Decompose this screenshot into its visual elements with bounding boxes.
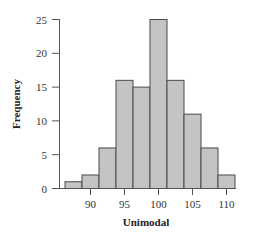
histogram-bar xyxy=(150,20,167,189)
x-axis-title: Unimodal xyxy=(123,216,169,228)
x-tick-label: 95 xyxy=(119,198,131,210)
histogram-bars xyxy=(65,20,235,189)
histogram-bar xyxy=(184,114,201,188)
x-axis: 9095100105110 xyxy=(59,188,236,210)
histogram-bar xyxy=(116,80,133,188)
y-axis: 0510152025 xyxy=(36,14,60,195)
histogram-bar xyxy=(82,175,99,189)
y-tick-label: 25 xyxy=(36,14,48,26)
y-axis-title: Frequency xyxy=(10,79,22,129)
histogram-bar xyxy=(167,80,184,188)
x-tick-label: 110 xyxy=(218,198,235,210)
histogram-bar xyxy=(201,148,218,189)
y-tick-label: 15 xyxy=(36,81,48,93)
y-tick-label: 10 xyxy=(36,115,48,127)
y-tick-label: 5 xyxy=(42,149,48,161)
y-tick-label: 20 xyxy=(36,47,48,59)
histogram-bar xyxy=(99,148,116,189)
x-tick-label: 90 xyxy=(85,198,97,210)
x-tick-label: 100 xyxy=(150,198,167,210)
histogram-bar xyxy=(133,87,150,188)
histogram-bar xyxy=(218,175,235,189)
y-tick-label: 0 xyxy=(42,183,48,195)
x-tick-label: 105 xyxy=(184,198,201,210)
histogram-bar xyxy=(65,182,82,189)
histogram-chart: 0510152025 9095100105110 Unimodal Freque… xyxy=(0,0,253,239)
